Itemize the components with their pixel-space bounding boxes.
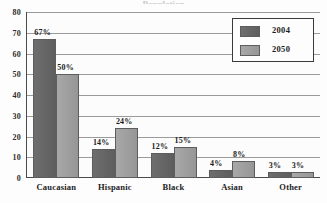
legend-label: 2050 (272, 44, 290, 54)
chart-legend: 20042050 (232, 18, 314, 62)
bar-group: 12%15% (151, 12, 197, 178)
x-axis-labels: CaucasianHispanicBlackAsianOther (27, 182, 320, 200)
bar-value-label: 50% (57, 63, 74, 72)
bar-value-label: 24% (116, 117, 133, 126)
y-axis: 80706050403020100 (0, 12, 24, 178)
bar-caucasian-2004 (33, 39, 56, 178)
y-axis-tick-label: 70 (13, 28, 21, 37)
bar-value-label: 3% (269, 161, 281, 170)
bar-value-label: 12% (152, 142, 169, 151)
y-axis-tick-label: 50 (13, 70, 21, 79)
bar-other-2050 (291, 172, 314, 178)
bar-value-label: 14% (93, 138, 110, 147)
bar-caucasian-2050 (56, 74, 79, 178)
legend-label: 2004 (272, 25, 290, 35)
bar-value-label: 8% (233, 150, 245, 159)
bar-black-2050 (174, 147, 197, 178)
x-axis-label-black: Black (163, 182, 185, 192)
y-axis-tick-label: 80 (13, 8, 21, 17)
y-axis-tick-label: 40 (13, 91, 21, 100)
y-axis-tick-label: 20 (13, 132, 21, 141)
y-axis-tick-label: 30 (13, 111, 21, 120)
bar-value-label: 3% (292, 161, 304, 170)
chart-title-cropped: Population (0, 0, 327, 4)
x-axis-label-hispanic: Hispanic (98, 182, 132, 192)
y-axis-tick-label: 60 (13, 49, 21, 58)
y-axis-tick-label: 10 (13, 153, 21, 162)
bar-value-label: 15% (175, 136, 192, 145)
bar-value-label: 67% (34, 28, 51, 37)
bar-asian-2050 (232, 161, 255, 178)
bar-group: 14%24% (92, 12, 138, 178)
x-axis-label-asian: Asian (221, 182, 243, 192)
x-axis-label-other: Other (279, 182, 302, 192)
bar-hispanic-2050 (115, 128, 138, 178)
bar-hispanic-2004 (92, 149, 115, 178)
bar-chart: Population 80706050403020100 67%50%14%24… (0, 0, 327, 203)
bar-black-2004 (151, 153, 174, 178)
bar-group: 67%50% (33, 12, 79, 178)
legend-swatch-icon (240, 26, 260, 37)
bar-other-2004 (268, 172, 291, 178)
legend-swatch-icon (240, 45, 260, 56)
bar-asian-2004 (209, 170, 232, 178)
bar-value-label: 4% (210, 159, 222, 168)
x-axis-label-caucasian: Caucasian (37, 182, 77, 192)
y-axis-tick-label: 0 (17, 174, 21, 183)
